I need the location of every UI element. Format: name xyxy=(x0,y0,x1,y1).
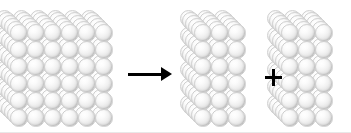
lattice-sphere xyxy=(27,58,45,76)
arrow-shaft xyxy=(128,73,163,76)
lattice-sphere xyxy=(78,41,96,59)
lattice-sphere xyxy=(211,92,229,110)
lattice-sphere xyxy=(315,41,333,59)
lattice-sphere xyxy=(315,58,333,76)
lattice-sphere xyxy=(194,75,212,93)
arrow-head xyxy=(161,67,172,81)
lattice-sphere xyxy=(211,75,229,93)
lattice-sphere xyxy=(95,109,113,127)
lattice-figure xyxy=(0,0,351,133)
lattice-sphere xyxy=(228,109,246,127)
lattice-sphere xyxy=(194,58,212,76)
lattice-sphere xyxy=(95,24,113,42)
lattice-sphere xyxy=(281,58,299,76)
lattice-sphere xyxy=(298,75,316,93)
lattice-sphere xyxy=(194,24,212,42)
lattice-sphere xyxy=(10,109,28,127)
lattice-sphere xyxy=(27,41,45,59)
lattice-sphere xyxy=(61,24,79,42)
lattice-sphere xyxy=(78,58,96,76)
lattice-sphere xyxy=(315,24,333,42)
lattice-sphere xyxy=(194,109,212,127)
lattice-sphere xyxy=(315,92,333,110)
lattice-sphere xyxy=(211,41,229,59)
lattice-sphere xyxy=(10,24,28,42)
lattice-sphere xyxy=(194,92,212,110)
lattice-sphere xyxy=(10,75,28,93)
lattice-sphere xyxy=(211,109,229,127)
lattice-sphere xyxy=(315,109,333,127)
lattice-sphere xyxy=(44,75,62,93)
lattice-sphere xyxy=(298,24,316,42)
lattice-sphere xyxy=(44,41,62,59)
lattice-sphere xyxy=(298,41,316,59)
lattice-sphere xyxy=(228,75,246,93)
lattice-sphere xyxy=(211,58,229,76)
lattice-sphere xyxy=(298,92,316,110)
lattice-sphere xyxy=(44,92,62,110)
lattice-sphere xyxy=(281,109,299,127)
lattice-sphere xyxy=(44,58,62,76)
lattice-sphere xyxy=(95,41,113,59)
lattice-sphere xyxy=(228,24,246,42)
lattice-sphere xyxy=(61,58,79,76)
lattice-sphere xyxy=(281,41,299,59)
lattice-sphere xyxy=(27,92,45,110)
lattice-sphere xyxy=(228,58,246,76)
lattice-sphere xyxy=(10,58,28,76)
lattice-sphere xyxy=(298,109,316,127)
lattice-sphere xyxy=(95,75,113,93)
lattice-sphere xyxy=(27,75,45,93)
lattice-sphere xyxy=(44,109,62,127)
lattice-sphere xyxy=(10,92,28,110)
lattice-sphere xyxy=(281,92,299,110)
lattice-sphere xyxy=(61,41,79,59)
lattice-sphere xyxy=(78,75,96,93)
lattice-sphere xyxy=(95,58,113,76)
lattice-sphere xyxy=(228,41,246,59)
lattice-sphere xyxy=(298,58,316,76)
lattice-sphere xyxy=(228,92,246,110)
lattice-sphere xyxy=(27,109,45,127)
lattice-sphere xyxy=(194,41,212,59)
lattice-sphere xyxy=(61,75,79,93)
lattice-sphere xyxy=(95,92,113,110)
plus-icon xyxy=(265,69,282,86)
lattice-sphere xyxy=(281,75,299,93)
arrow-icon xyxy=(128,67,172,81)
lattice-sphere xyxy=(78,109,96,127)
lattice-sphere xyxy=(78,24,96,42)
lattice-sphere xyxy=(27,24,45,42)
lattice-sphere xyxy=(10,41,28,59)
lattice-sphere xyxy=(44,24,62,42)
plus-vertical-bar xyxy=(272,69,275,86)
lattice-sphere xyxy=(281,24,299,42)
lattice-sphere xyxy=(315,75,333,93)
lattice-sphere xyxy=(61,92,79,110)
lattice-sphere xyxy=(61,109,79,127)
lattice-sphere xyxy=(78,92,96,110)
lattice-sphere xyxy=(211,24,229,42)
